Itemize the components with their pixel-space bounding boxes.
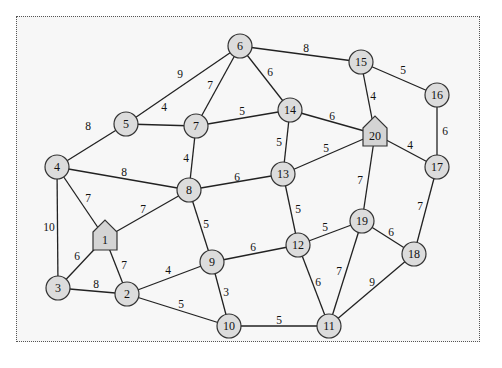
edge-weight-label: 8 [121,166,127,178]
edge-8-1 [105,190,189,238]
node-15: 15 [349,50,373,74]
edge-weight-label: 4 [407,139,413,151]
edge-weight-label: 5 [178,298,184,310]
edge-6-7 [196,46,240,126]
node-14: 14 [278,98,302,122]
node-label: 3 [55,281,61,295]
edge-weight-label: 5 [295,203,301,215]
node-5: 5 [114,112,138,136]
edge-weight-label: 5 [203,218,209,230]
node-18: 18 [402,242,426,266]
node-label: 13 [277,167,289,181]
node-label: 5 [123,117,129,131]
node-4: 4 [45,155,69,179]
node-13: 13 [271,162,295,186]
edge-weight-label: 7 [417,200,423,212]
edge-weight-label: 9 [177,68,183,80]
node-label: 4 [54,160,60,174]
node-label: 7 [193,119,199,133]
edge-weight-label: 6 [234,171,240,183]
edge-12-11 [298,245,329,326]
edge-6-5 [126,46,240,124]
node-label: 1 [102,233,108,247]
node-label: 10 [223,319,235,333]
node-16: 16 [425,83,449,107]
edge-weight-label: 7 [121,259,127,271]
edge-20-13 [283,134,375,174]
weights-layer: 97684854871076556456547567845365676795 [43,42,448,326]
node-label: 20 [369,129,381,143]
node-label: 12 [292,238,304,252]
edge-weight-label: 3 [223,286,229,298]
edge-weight-label: 5 [239,105,245,117]
node-3: 3 [46,276,70,300]
edge-weight-label: 5 [276,136,282,148]
edge-weight-label: 5 [276,314,282,326]
edge-weight-label: 6 [74,250,80,262]
node-2: 2 [115,282,139,306]
node-6: 6 [228,34,252,58]
node-11: 11 [317,314,341,338]
edge-weight-label: 5 [323,142,329,154]
edge-weight-label: 6 [250,241,256,253]
node-12: 12 [286,233,310,257]
node-label: 18 [408,247,420,261]
node-10: 10 [217,314,241,338]
edge-weight-label: 5 [322,221,328,233]
edge-weight-label: 7 [336,265,342,277]
edge-20-19 [362,134,375,221]
edge-weight-label: 6 [267,66,273,78]
node-7: 7 [184,114,208,138]
node-19: 19 [350,209,374,233]
node-8: 8 [177,178,201,202]
edges-layer [57,46,437,326]
edge-weight-label: 8 [303,42,309,54]
graph-canvas: 97684854871076556456547567845365676795 1… [0,0,502,368]
edge-19-11 [329,221,362,326]
node-label: 17 [431,160,443,174]
node-9: 9 [200,250,224,274]
node-label: 8 [186,183,192,197]
edge-weight-label: 7 [357,174,363,186]
edge-weight-label: 4 [370,90,376,102]
edge-weight-label: 4 [161,101,167,113]
edge-weight-label: 9 [369,276,375,288]
edge-weight-label: 6 [442,125,448,137]
node-label: 16 [431,88,443,102]
edge-weight-label: 10 [43,221,55,233]
edge-weight-label: 6 [388,226,394,238]
node-20: 20 [363,116,387,146]
node-label: 9 [209,255,215,269]
node-label: 15 [355,55,367,69]
edge-weight-label: 8 [93,278,99,290]
edge-6-15 [240,46,361,62]
edge-weight-label: 6 [329,110,335,122]
edge-weight-label: 4 [165,264,171,276]
node-17: 17 [425,155,449,179]
edge-weight-label: 7 [85,192,91,204]
node-label: 11 [323,319,335,333]
edge-weight-label: 7 [140,203,146,215]
node-label: 14 [284,103,296,117]
edge-weight-label: 8 [85,120,91,132]
edge-weight-label: 6 [315,276,321,288]
node-label: 19 [356,214,368,228]
edge-4-3 [57,167,58,288]
node-label: 6 [237,39,243,53]
edge-weight-label: 4 [183,152,189,164]
edge-weight-label: 5 [400,64,406,76]
edge-weight-label: 7 [207,79,213,91]
node-label: 2 [124,287,130,301]
